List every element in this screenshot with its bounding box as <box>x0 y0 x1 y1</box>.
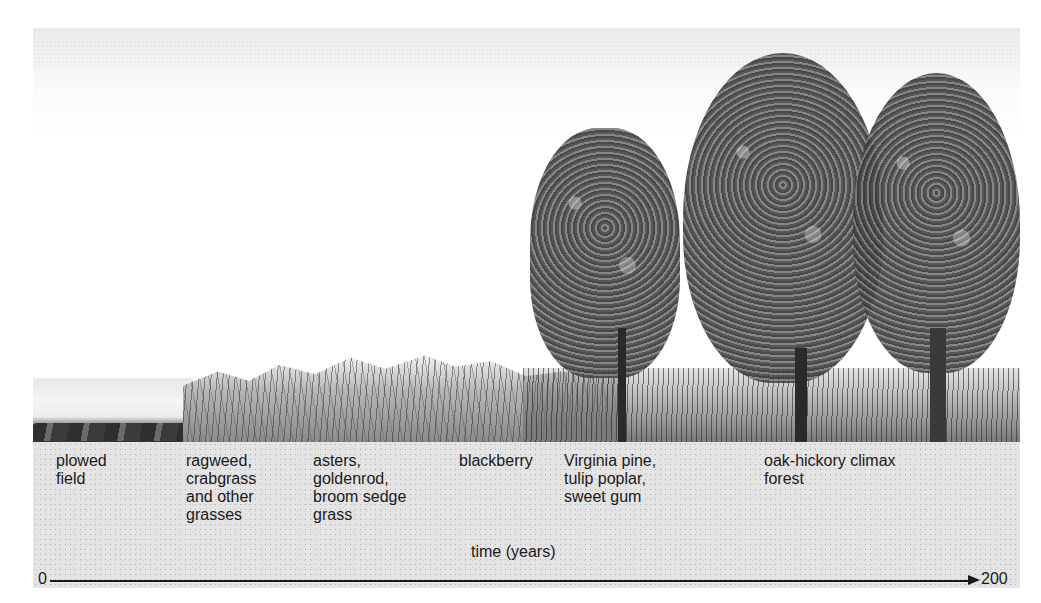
axis-end-label: 200 <box>981 570 1008 588</box>
axis-title: time (years) <box>471 543 555 561</box>
time-axis-line <box>50 580 970 582</box>
stage-labels: plowed field ragweed, crabgrass and othe… <box>0 0 1041 603</box>
stage-label-asters: asters, goldenrod, broom sedge grass <box>313 452 406 524</box>
stage-label-blackberry: blackberry <box>459 452 533 470</box>
stage-label-virginia-pine: Virginia pine, tulip poplar, sweet gum <box>564 452 656 506</box>
stage-label-oak-hickory: oak-hickory climax forest <box>764 452 896 488</box>
stage-label-plowed-field: plowed field <box>56 452 107 488</box>
stage-label-ragweed: ragweed, crabgrass and other grasses <box>186 452 256 524</box>
axis-start-label: 0 <box>38 570 47 588</box>
axis-arrow-icon <box>968 575 980 585</box>
